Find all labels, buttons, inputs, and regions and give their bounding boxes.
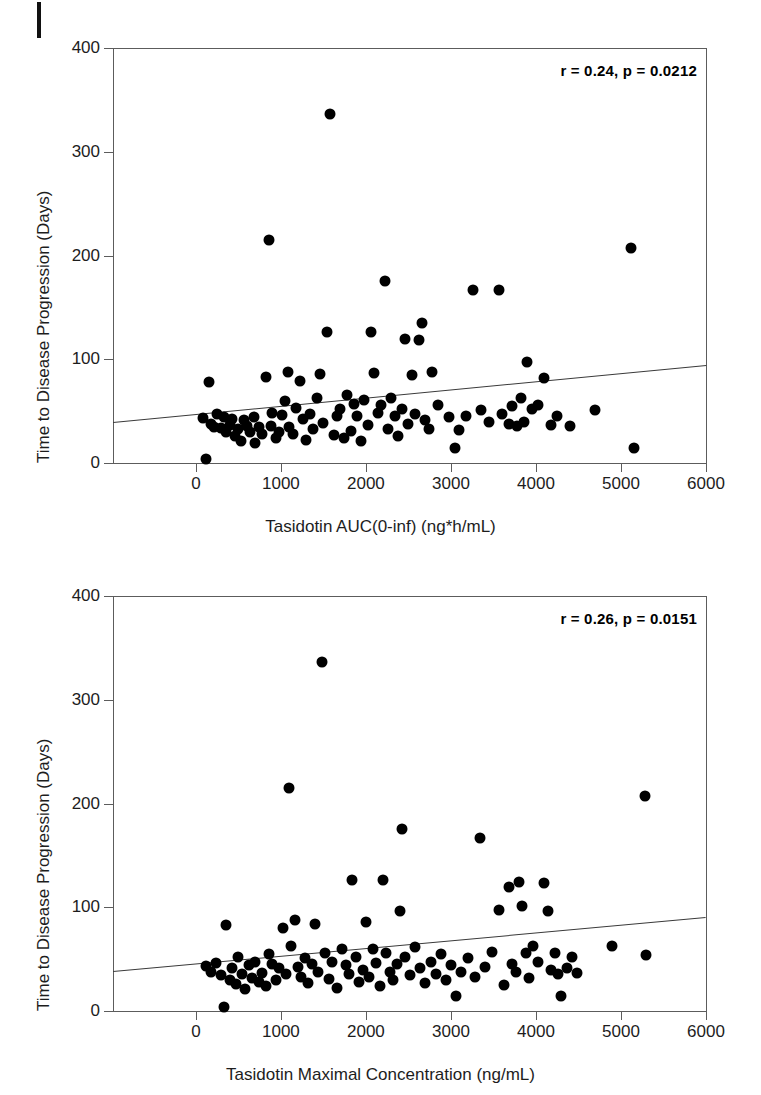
- data-point: [450, 443, 461, 454]
- data-point: [326, 957, 337, 968]
- data-point: [303, 977, 314, 988]
- axis-right: [706, 596, 707, 1011]
- scatter-panel-cmax: 01002003004000100020003000400050006000r …: [0, 548, 761, 1093]
- data-point: [309, 918, 320, 929]
- data-point: [369, 367, 380, 378]
- data-point: [498, 980, 509, 991]
- data-point: [571, 967, 582, 978]
- data-point: [379, 276, 390, 287]
- data-point: [420, 977, 431, 988]
- data-point: [315, 368, 326, 379]
- data-point: [337, 943, 348, 954]
- data-point: [433, 399, 444, 410]
- x-axis-tick: [451, 1011, 452, 1020]
- data-point: [454, 424, 465, 435]
- x-axis-title: Tasidotin Maximal Concentration (ng/mL): [0, 1065, 761, 1085]
- axis-top: [113, 596, 706, 597]
- data-point: [274, 426, 285, 437]
- data-point: [410, 409, 421, 420]
- axis-left: [113, 596, 114, 1011]
- data-point: [388, 974, 399, 985]
- data-point: [413, 334, 424, 345]
- data-point: [564, 420, 575, 431]
- data-point: [360, 916, 371, 927]
- data-point: [323, 973, 334, 984]
- data-point: [440, 974, 451, 985]
- data-point: [469, 971, 480, 982]
- y-axis-tick-label: 100: [72, 349, 100, 369]
- data-point: [639, 791, 650, 802]
- data-point: [566, 952, 577, 963]
- data-point: [403, 418, 414, 429]
- x-axis-tick: [366, 463, 367, 472]
- data-point: [406, 369, 417, 380]
- data-point: [294, 376, 305, 387]
- data-point: [287, 428, 298, 439]
- data-point: [371, 958, 382, 969]
- data-point: [250, 438, 261, 449]
- data-point: [415, 963, 426, 974]
- data-point: [277, 923, 288, 934]
- data-point: [257, 428, 268, 439]
- data-point: [405, 969, 416, 980]
- x-axis-tick-label: 3000: [432, 474, 470, 494]
- axis-right: [706, 48, 707, 463]
- data-point: [383, 423, 394, 434]
- data-point: [396, 404, 407, 415]
- y-axis-title: Time to Disease Progression (Days): [34, 739, 54, 1011]
- data-point: [270, 974, 281, 985]
- data-point: [590, 405, 601, 416]
- y-axis-tick-label: 200: [72, 794, 100, 814]
- data-point: [400, 952, 411, 963]
- y-axis-tick: [104, 463, 113, 464]
- data-point: [527, 940, 538, 951]
- y-axis-tick: [104, 700, 113, 701]
- data-point: [475, 405, 486, 416]
- data-point: [386, 392, 397, 403]
- x-axis-tick: [706, 463, 707, 472]
- data-point: [517, 901, 528, 912]
- y-axis-tick: [104, 596, 113, 597]
- data-point: [519, 416, 530, 427]
- data-point: [435, 948, 446, 959]
- y-axis-tick-label: 300: [72, 690, 100, 710]
- data-point: [291, 403, 302, 414]
- data-point: [350, 952, 361, 963]
- axis-left: [113, 48, 114, 463]
- data-point: [282, 366, 293, 377]
- data-point: [250, 957, 261, 968]
- data-point: [260, 981, 271, 992]
- x-axis-tick-label: 1000: [262, 1022, 300, 1042]
- data-point: [354, 976, 365, 987]
- x-axis-tick: [536, 1011, 537, 1020]
- plot-area: 01002003004000100020003000400050006000r …: [113, 596, 706, 1011]
- plot-area: 01002003004000100020003000400050006000r …: [113, 48, 706, 463]
- data-point: [423, 423, 434, 434]
- data-point: [484, 416, 495, 427]
- data-point: [304, 409, 315, 420]
- data-point: [410, 941, 421, 952]
- data-point: [325, 109, 336, 120]
- y-axis-tick-label: 300: [72, 142, 100, 162]
- data-point: [355, 436, 366, 447]
- x-axis-tick: [196, 463, 197, 472]
- data-point: [626, 243, 637, 254]
- data-point: [444, 412, 455, 423]
- data-point: [430, 968, 441, 979]
- data-point: [451, 991, 462, 1002]
- x-axis-tick-label: 0: [191, 474, 200, 494]
- data-point: [468, 284, 479, 295]
- data-point: [539, 372, 550, 383]
- data-point: [515, 392, 526, 403]
- data-point: [362, 419, 373, 430]
- x-axis-tick: [706, 1011, 707, 1020]
- data-point: [417, 317, 428, 328]
- data-point: [280, 395, 291, 406]
- y-axis-tick-label: 200: [72, 246, 100, 266]
- data-point: [532, 399, 543, 410]
- data-point: [301, 435, 312, 446]
- scatter-panel-auc: 01002003004000100020003000400050006000r …: [0, 0, 761, 545]
- data-point: [393, 431, 404, 442]
- data-point: [493, 905, 504, 916]
- correlation-annotation: r = 0.24, p = 0.0212: [560, 62, 697, 79]
